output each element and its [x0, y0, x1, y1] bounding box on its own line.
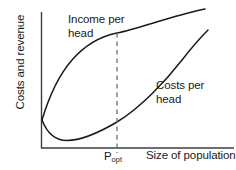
costs-per-head-label: Costs perhead: [156, 78, 204, 106]
income-label-line2: head: [68, 27, 93, 39]
popt-axis-label: Popt: [104, 149, 122, 167]
costs-label-line1: Costs per: [156, 79, 204, 91]
y-axis-label: Costs and revenue: [14, 6, 26, 118]
x-axis-label: Size of population: [146, 148, 236, 162]
income-label-line1: Income per: [68, 13, 125, 25]
income-per-head-label: Income perhead: [68, 12, 125, 40]
popt-subscript-text: opt: [112, 155, 122, 164]
population-optimum-chart: Costs and revenue Size of population Inc…: [0, 0, 236, 170]
costs-label-line2: head: [156, 93, 181, 105]
popt-main-text: P: [104, 150, 112, 162]
